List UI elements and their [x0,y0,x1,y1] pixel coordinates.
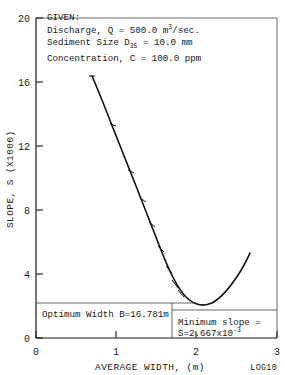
y-tick-label-16: 16 [18,78,30,89]
given-sediment-subscript: 35 [130,43,138,50]
y-axis-ticks [36,18,43,338]
minimum-slope-label-line2: S=2.667x10-3 [178,327,241,339]
slope-curve [92,76,250,305]
y-tick-label-0: 0 [24,334,30,345]
x-axis-title: AVERAGE WIDTH, (m) [95,362,205,373]
given-discharge-prefix: Discharge, Q = 500.0 m [47,25,169,36]
minimum-slope-value-prefix: S=2.667x10 [178,328,233,339]
x-tick-label-0: 0 [33,347,39,358]
chart-figure: 20 16 12 8 4 0 SLOPE, S (X1000) 0 1 2 3 … [0,0,285,375]
y-tick-label-4: 4 [24,270,30,281]
given-box: GIVEN: Discharge, Q = 500.0 m3/sec. Sedi… [39,8,277,68]
plot-frame [36,18,277,338]
given-line-sediment: Sediment Size D35 = 10.0 mm [47,37,193,50]
x-axis-scale-note: LOG10 [250,363,277,373]
x-tick-label-2: 2 [193,347,199,358]
x-tick-label-1: 1 [113,347,119,358]
optimum-width-label: Optimum Width B=16.781m [42,309,169,320]
y-tick-label-8: 8 [24,206,30,217]
y-axis-tick-labels: 20 16 12 8 4 0 [18,14,30,345]
given-heading: GIVEN: [47,12,80,23]
x-axis-tick-labels: 0 1 2 3 [33,347,280,358]
y-tick-label-12: 12 [18,142,30,153]
y-axis-title: SLOPE, S (X1000) [5,130,16,228]
slope-vs-width-plot: 20 16 12 8 4 0 SLOPE, S (X1000) 0 1 2 3 … [0,0,285,375]
given-line-discharge: Discharge, Q = 500.0 m3/sec. [47,24,200,36]
x-axis-ticks [36,331,277,338]
minimum-slope-label-line1: Minimum slope = [178,317,261,328]
given-discharge-suffix: /sec. [172,25,200,36]
x-tick-label-3: 3 [274,347,280,358]
given-sediment-suffix: = 10.0 mm [137,37,193,48]
minimum-slope-exponent: -3 [233,327,241,334]
y-tick-label-20: 20 [18,14,30,25]
given-line-concentration: Concentration, C = 100.0 ppm [47,53,202,64]
given-sediment-prefix: Sediment Size D [47,37,130,48]
